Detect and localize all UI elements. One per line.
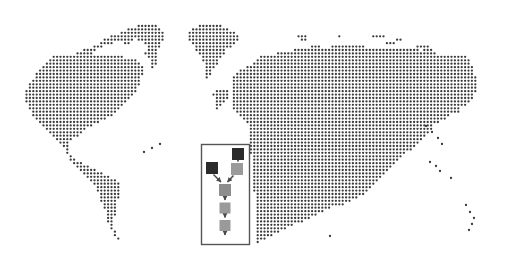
flow-node-stage-right[interactable] <box>231 163 243 175</box>
flow-node-step-3[interactable] <box>220 220 231 231</box>
flow-node-source-right[interactable] <box>232 148 244 160</box>
flow-node-step-2[interactable] <box>220 203 231 214</box>
flow-node-merge[interactable] <box>219 184 231 196</box>
process-flow-diagram <box>0 0 512 265</box>
screenshot-stage <box>0 0 512 265</box>
flow-node-source-left[interactable] <box>206 162 218 174</box>
